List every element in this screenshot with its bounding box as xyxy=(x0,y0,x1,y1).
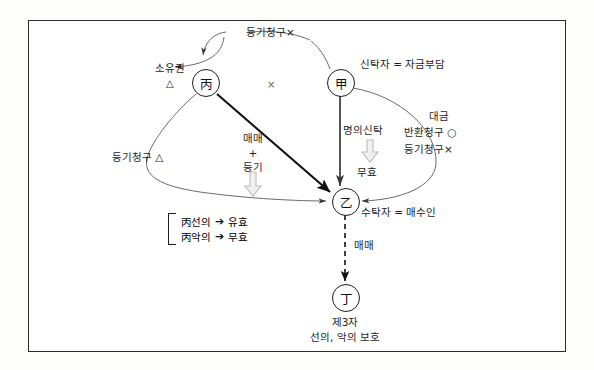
rule-condition: 丙선의 xyxy=(181,214,211,229)
label-price-line1: 대금 xyxy=(404,110,474,123)
bracket-rule-row: 丙악의 ➔ 무효 xyxy=(181,229,248,244)
label-center-cross: × xyxy=(267,79,275,92)
bracket-rules: 丙선의 ➔ 유효 丙악의 ➔ 무효 xyxy=(168,213,248,245)
node-byeong: 丙 xyxy=(192,69,220,97)
label-eul-role: 수탁자 = 매수인 xyxy=(361,206,436,219)
rule-condition: 丙악의 xyxy=(181,229,211,244)
label-price-registration-claim: 등기청구× xyxy=(404,143,453,156)
node-eul: 乙 xyxy=(332,188,360,216)
node-jeong: 丁 xyxy=(332,284,360,312)
diagram-root: 丙 甲 乙 丁 등기청구× 소유권 △ × 신탁자 = 자금부담 대금 반환청구… xyxy=(0,0,594,370)
label-ownership-mark: △ xyxy=(166,78,174,91)
label-ownership: 소유권 xyxy=(155,62,185,75)
hollow-arrow-sale xyxy=(245,172,261,196)
node-gap: 甲 xyxy=(327,69,355,97)
label-left-registration-claim: 등기청구 △ xyxy=(112,151,163,164)
rule-result: 무효 xyxy=(228,229,248,244)
label-registration: 등기 xyxy=(232,161,274,174)
label-jeong-protection: 선의, 악의 보호 xyxy=(290,331,400,344)
right-arrow-icon: ➔ xyxy=(215,215,224,228)
label-sale: 매매 xyxy=(232,132,274,145)
right-arrow-icon: ➔ xyxy=(215,230,224,243)
rule-result: 유효 xyxy=(228,214,248,229)
hollow-arrow-title-trust xyxy=(362,140,378,162)
label-eul-to-jeong-sale: 매매 xyxy=(354,239,374,252)
bracket-icon xyxy=(168,213,176,245)
label-gap-role: 신탁자 = 자금부담 xyxy=(360,58,445,71)
label-price-return-claim: 반환청구 ○ xyxy=(404,126,457,139)
diagram-canvas xyxy=(0,0,594,370)
label-sale-plus: + xyxy=(232,147,274,160)
bracket-rule-row: 丙선의 ➔ 유효 xyxy=(181,214,248,229)
label-jeong-role: 제3자 xyxy=(315,316,375,329)
label-title-trust-result: 무효 xyxy=(357,166,377,179)
label-title-trust: 명의신탁 xyxy=(343,124,383,137)
label-top-registration-claim: 등기청구× xyxy=(246,26,295,39)
